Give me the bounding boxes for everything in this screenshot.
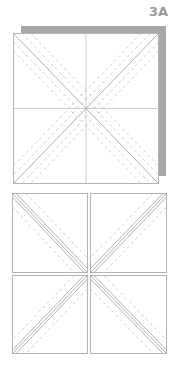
bottom-solid-diagonals [13,194,167,354]
top-square [14,34,159,184]
top-block-diagram [0,0,176,374]
